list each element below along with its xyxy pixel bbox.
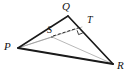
edge-pr xyxy=(18,48,113,64)
point-label-s: S xyxy=(47,25,52,35)
vertex-label-q: Q xyxy=(62,1,70,12)
vertex-dots xyxy=(51,36,52,37)
geometry-figure: P Q R S T xyxy=(0,0,131,79)
cevian-p-to-s xyxy=(18,37,52,48)
cevian-s-to-r xyxy=(52,37,113,64)
vertex-label-p: P xyxy=(4,41,11,52)
triangle-outline xyxy=(18,16,113,64)
vertex-dot-s xyxy=(51,36,52,37)
edge-pq xyxy=(18,16,68,48)
vertex-label-r: R xyxy=(117,60,124,71)
point-label-t: T xyxy=(87,15,93,25)
